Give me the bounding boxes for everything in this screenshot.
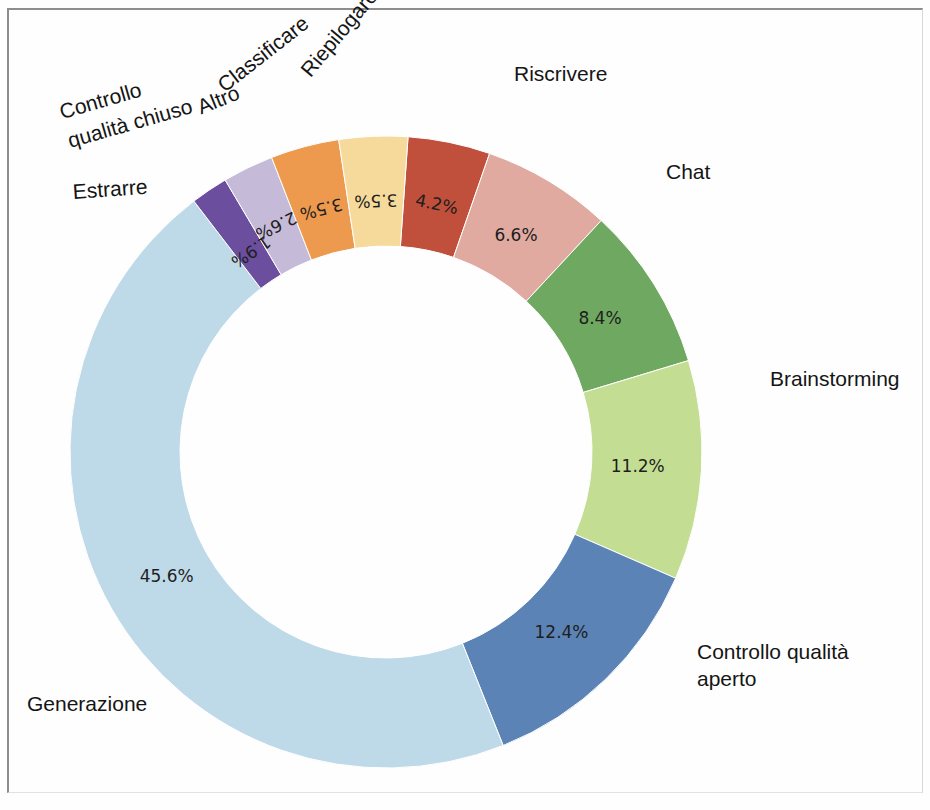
donut-chart-figure: 4.2%6.6%8.4%11.2%12.4%45.6%1.9%2.6%3.5%3… bbox=[0, 0, 930, 810]
controllo-qualita-aperto-line-2: aperto bbox=[697, 665, 849, 692]
category-label-chat: Chat bbox=[666, 160, 710, 184]
donut-slices-group bbox=[70, 136, 702, 768]
slice-percentage-label: 6.6% bbox=[494, 225, 537, 245]
slice-percentage-label: 8.4% bbox=[578, 308, 621, 328]
slice-percentage-label: 11.2% bbox=[611, 456, 665, 476]
category-label-riscrivere: Riscrivere bbox=[514, 62, 607, 86]
slice-percentage-label: 45.6% bbox=[140, 566, 194, 586]
slice-percentage-label: 12.4% bbox=[535, 622, 589, 642]
category-label-brainstorming: Brainstorming bbox=[770, 367, 900, 391]
controllo-qualita-aperto-line-1: Controllo qualità bbox=[697, 638, 849, 665]
slice-percentage-label: 3.5% bbox=[354, 190, 398, 212]
donut-slice[interactable] bbox=[70, 201, 503, 768]
category-label-generazione: Generazione bbox=[27, 692, 147, 716]
category-label-controllo-qualita-aperto: Controllo qualità aperto bbox=[697, 638, 849, 692]
